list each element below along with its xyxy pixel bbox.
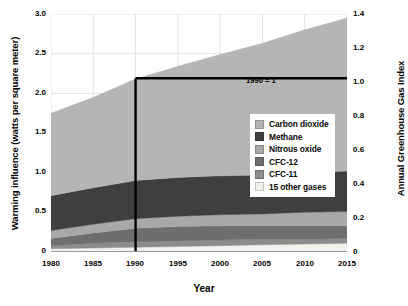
y-tick-left-1.5: 1.5 — [20, 127, 46, 136]
y-tick-left-2.0: 2.0 — [20, 88, 46, 97]
y-tick-left-0.5: 0.5 — [20, 206, 46, 215]
x-tick-1980: 1980 — [31, 259, 71, 268]
y-tick-right-0.2: 0.2 — [353, 213, 379, 222]
legend-label-cfc-12: CFC-12 — [269, 157, 298, 167]
legend-swatch-icon-nitrous-oxide — [255, 145, 264, 154]
reference-line-annotation: 1990 = 1 — [246, 76, 276, 85]
legend-swatch-icon-15-other-gases — [255, 182, 264, 191]
legend-label-15-other-gases: 15 other gases — [269, 182, 326, 192]
legend-swatch-icon-cfc-11 — [255, 170, 264, 179]
y-tick-right-1.0: 1.0 — [353, 77, 379, 86]
chart-legend: Carbon dioxide Methane Nitrous oxide CFC… — [250, 114, 335, 197]
y-axis-label-right: Annual Greenhouse Gas Index — [395, 29, 406, 229]
legend-swatch-icon-carbon-dioxide — [255, 120, 264, 129]
legend-swatch-icon-methane — [255, 132, 264, 141]
x-tick-1985: 1985 — [73, 259, 113, 268]
x-tick-2005: 2005 — [242, 259, 282, 268]
x-axis-label: Year — [0, 283, 408, 294]
y-tick-right-0.6: 0.6 — [353, 145, 379, 154]
legend-label-cfc-11: CFC-11 — [269, 169, 297, 179]
greenhouse-gas-index-chart: Warming influence (watts per square mete… — [0, 0, 408, 306]
x-tick-2000: 2000 — [200, 259, 240, 268]
legend-label-carbon-dioxide: Carbon dioxide — [269, 119, 329, 129]
y-tick-right-0.4: 0.4 — [353, 179, 379, 188]
legend-label-nitrous-oxide: Nitrous oxide — [269, 144, 321, 154]
y-tick-right-1.2: 1.2 — [353, 43, 379, 52]
legend-swatch-icon-cfc-12 — [255, 157, 264, 166]
legend-item-carbon-dioxide: Carbon dioxide — [255, 118, 329, 131]
x-tick-1990: 1990 — [115, 259, 155, 268]
legend-item-methane: Methane — [255, 131, 329, 144]
x-tick-2010: 2010 — [285, 259, 325, 268]
y-tick-left-3.0: 3.0 — [20, 9, 46, 18]
y-axis-label-left: Warming influence (watts per square mete… — [9, 34, 20, 234]
y-tick-right-1.4: 1.4 — [353, 9, 379, 18]
legend-item-15-other-gases: 15 other gases — [255, 181, 329, 194]
legend-item-nitrous-oxide: Nitrous oxide — [255, 143, 329, 156]
x-tick-2015: 2015 — [327, 259, 367, 268]
y-tick-left-1.0: 1.0 — [20, 167, 46, 176]
x-tick-1995: 1995 — [158, 259, 198, 268]
y-tick-left-0: 0 — [20, 246, 46, 255]
y-tick-left-2.5: 2.5 — [20, 48, 46, 57]
legend-label-methane: Methane — [269, 132, 302, 142]
legend-item-cfc-12: CFC-12 — [255, 156, 329, 169]
y-tick-right-0.8: 0.8 — [353, 111, 379, 120]
y-tick-right-0: 0 — [353, 247, 379, 256]
legend-item-cfc-11: CFC-11 — [255, 168, 329, 181]
